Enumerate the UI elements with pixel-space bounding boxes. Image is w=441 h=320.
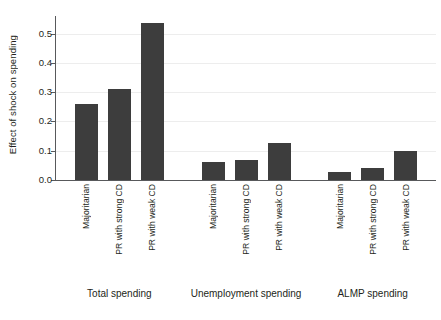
y-axis-title-text: Effect of shock on spending bbox=[7, 35, 18, 154]
bar-chart-figure: Effect of shock on spending 0.00.10.20.3… bbox=[0, 0, 441, 320]
y-axis-title: Effect of shock on spending bbox=[0, 0, 24, 190]
x-axis-category-label-text: Majoritarian bbox=[81, 184, 91, 229]
y-axis-tick-label: 0.4 bbox=[39, 58, 52, 68]
x-axis-category-label-text: PR with weak CD bbox=[401, 184, 411, 251]
x-axis-category-label: PR with weak CD bbox=[132, 184, 172, 280]
x-axis-category-label-text: PR with strong CD bbox=[368, 184, 378, 255]
x-axis-category-label-text: Majoritarian bbox=[208, 184, 218, 229]
y-axis-tick-label: 0.1 bbox=[39, 146, 52, 156]
bar bbox=[202, 162, 225, 180]
x-axis-category-label: PR with weak CD bbox=[386, 184, 426, 280]
x-axis-line bbox=[55, 180, 436, 181]
bar bbox=[141, 23, 164, 180]
bar bbox=[361, 168, 384, 180]
x-axis-category-label-text: PR with strong CD bbox=[114, 184, 124, 255]
bar bbox=[235, 160, 258, 181]
y-axis-tick-label: 0.5 bbox=[39, 29, 52, 39]
bar bbox=[268, 143, 291, 180]
x-axis-category-label: PR with weak CD bbox=[259, 184, 299, 280]
y-axis-tick-label: 0.3 bbox=[39, 87, 52, 97]
bar bbox=[328, 172, 351, 180]
x-axis-category-label-text: PR with weak CD bbox=[274, 184, 284, 251]
gridline bbox=[56, 34, 436, 35]
y-axis-tick-label: 0.0 bbox=[39, 175, 52, 185]
x-axis-category-label-text: PR with weak CD bbox=[147, 184, 157, 251]
x-axis-category-label-text: Majoritarian bbox=[335, 184, 345, 229]
group-label: ALMP spending bbox=[293, 288, 441, 299]
bar bbox=[108, 89, 131, 180]
bar bbox=[75, 104, 98, 180]
plot-area: 0.00.10.20.30.40.5 bbox=[56, 16, 436, 180]
gridline bbox=[56, 63, 436, 64]
x-axis-category-label-text: PR with strong CD bbox=[241, 184, 251, 255]
y-axis-tick-label: 0.2 bbox=[39, 117, 52, 127]
bar bbox=[394, 151, 417, 180]
